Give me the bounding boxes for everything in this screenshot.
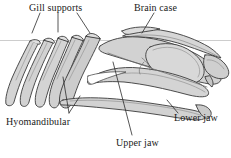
label-brain-case: Brain case	[134, 2, 177, 13]
label-hyomandibular: Hyomandibular	[6, 116, 70, 127]
label-gill-supports: Gill supports	[29, 2, 82, 13]
label-lower-jaw: Lower jaw	[174, 112, 218, 123]
leader-gill-3	[77, 13, 90, 33]
label-upper-jaw: Upper jaw	[116, 137, 159, 148]
fish-skull-diagram	[0, 0, 231, 158]
leader-gill-1	[32, 13, 40, 33]
